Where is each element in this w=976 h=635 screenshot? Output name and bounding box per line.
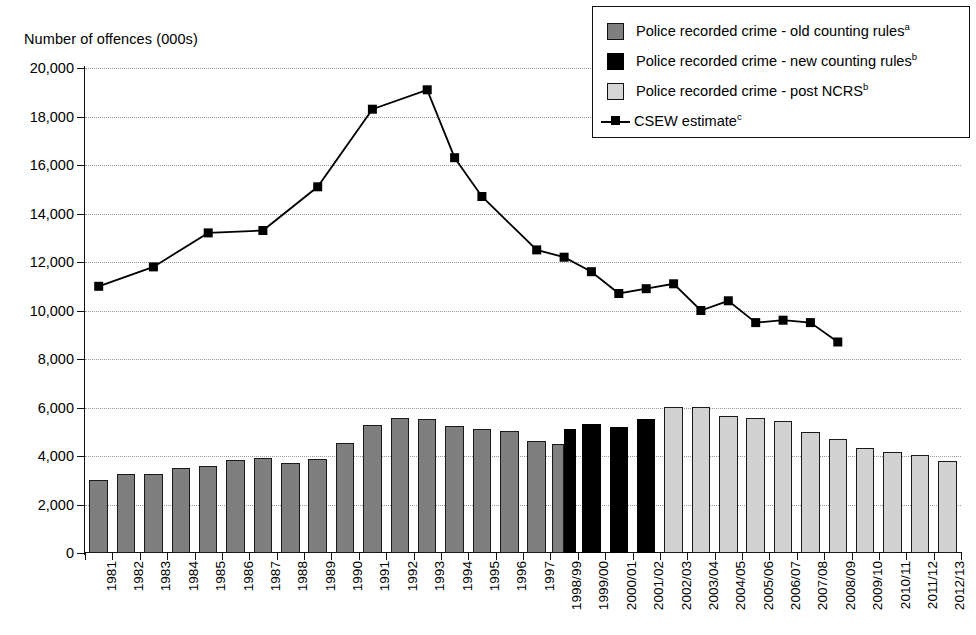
csew-data-point-marker [833,338,842,347]
x-tick-mark [906,553,907,560]
x-tick-label: 1989 [324,561,338,591]
csew-data-point-marker [258,226,267,235]
x-tick-mark [304,553,305,560]
x-tick-mark [496,553,497,560]
x-tick-mark [660,553,661,560]
csew-data-point-marker [724,296,733,305]
x-tick-label: 2007/08 [816,561,830,610]
x-tick-label: 1984 [187,561,201,591]
x-tick-label: 1996 [515,561,529,591]
x-tick-mark [112,553,113,560]
legend-item-new-counting-rules[interactable]: Police recorded crime - new counting rul… [607,46,969,76]
csew-data-point-marker [806,318,815,327]
x-tick-mark [277,553,278,560]
csew-data-point-marker [614,289,623,298]
legend-label-post-ncrs: Police recorded crime - post NCRSb [636,84,868,99]
x-tick-label: 1999/00 [597,561,611,610]
x-tick-mark [195,553,196,560]
x-tick-label: 2010/11 [899,561,913,609]
legend-item-csew-estimate[interactable]: CSEW estimatec [607,106,969,136]
x-tick-mark [85,553,86,560]
legend-swatch-old-counting-rules [607,23,624,40]
x-tick-label: 1990 [351,561,365,591]
x-tick-label: 2000/01 [625,561,639,610]
x-tick-label: 2002/03 [680,561,694,610]
x-tick-label: 1995 [488,561,502,591]
x-tick-mark [934,553,935,560]
x-tick-label: 2001/02 [652,561,666,610]
x-tick-label: 1987 [269,561,283,591]
x-tick-mark [742,553,743,560]
x-tick-label: 2004/05 [734,561,748,610]
csew-data-point-marker [423,85,432,94]
x-tick-mark [824,553,825,560]
csew-data-point-marker [313,182,322,191]
x-tick-label: 1997 [543,561,557,591]
x-tick-label: 2008/09 [844,561,858,610]
csew-data-point-marker [669,279,678,288]
x-tick-label: 2003/04 [707,561,721,610]
legend-item-old-counting-rules[interactable]: Police recorded crime - old counting rul… [607,16,969,46]
x-tick-label: 1988 [296,561,310,591]
legend-label-new-counting-rules: Police recorded crime - new counting rul… [636,54,917,69]
csew-data-point-marker [779,316,788,325]
x-tick-label: 1992 [406,561,420,591]
csew-data-point-marker [560,253,569,262]
x-tick-mark [414,553,415,560]
x-tick-label: 1998/99 [570,561,584,610]
x-tick-mark [715,553,716,560]
x-tick-mark [140,553,141,560]
x-tick-label: 2005/06 [762,561,776,610]
x-tick-mark [167,553,168,560]
x-tick-label: 1985 [214,561,228,591]
x-tick-mark [523,553,524,560]
csew-data-point-marker [368,105,377,114]
x-tick-label: 1981 [105,561,119,591]
x-tick-label: 1982 [132,561,146,591]
csew-data-point-marker [587,267,596,276]
x-tick-label: 2006/07 [789,561,803,610]
x-tick-mark [386,553,387,560]
csew-data-point-marker [642,284,651,293]
x-tick-label: 1986 [242,561,256,591]
csew-data-point-marker [204,228,213,237]
x-tick-mark [605,553,606,560]
x-tick-mark [769,553,770,560]
chart-legend: Police recorded crime - old counting rul… [592,6,970,138]
legend-line-marker-icon [601,113,630,130]
csew-data-point-marker [532,245,541,254]
csew-data-point-marker [94,282,103,291]
x-tick-label: 2009/10 [871,561,885,610]
x-tick-mark [797,553,798,560]
x-tick-mark [359,553,360,560]
csew-data-point-marker [149,262,158,271]
legend-label-old-counting-rules: Police recorded crime - old counting rul… [636,24,910,39]
x-tick-mark [468,553,469,560]
legend-swatch-post-ncrs [607,83,624,100]
x-tick-mark [222,553,223,560]
legend-item-post-ncrs[interactable]: Police recorded crime - post NCRSb [607,76,969,106]
x-tick-mark [441,553,442,560]
csew-data-point-marker [696,306,705,315]
x-tick-label: 1991 [378,561,392,591]
x-tick-mark [633,553,634,560]
x-tick-label: 2011/12 [926,561,940,609]
x-tick-mark [578,553,579,560]
legend-swatch-new-counting-rules [607,53,624,70]
legend-label-csew-estimate: CSEW estimatec [634,114,742,129]
x-tick-label: 1983 [159,561,173,591]
x-tick-mark [852,553,853,560]
x-tick-mark [331,553,332,560]
x-tick-label: 1994 [461,561,475,591]
x-tick-label: 2012/13 [953,561,967,610]
x-tick-mark [687,553,688,560]
x-tick-label: 1993 [433,561,447,591]
csew-data-point-marker [450,153,459,162]
x-tick-mark [550,553,551,560]
x-tick-mark [879,553,880,560]
x-tick-mark [961,553,962,560]
csew-data-point-marker [751,318,760,327]
x-tick-mark [249,553,250,560]
csew-data-point-marker [477,192,486,201]
